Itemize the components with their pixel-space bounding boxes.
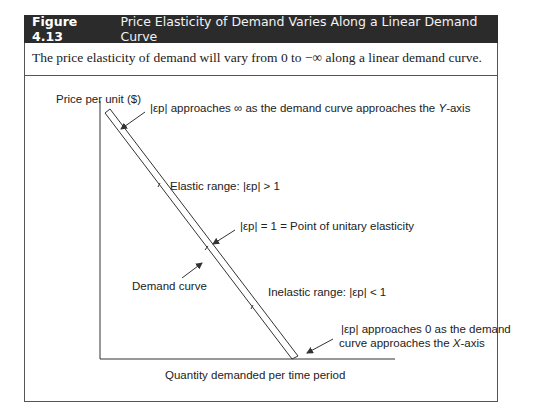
demand-diagram: Price per unit ($) |εp| approaches ∞ as … [0,0,559,412]
annotation-unitary: |εp| = 1 = Point of unitary elasticity [240,220,414,232]
arrow-unitary [213,230,235,244]
arrow-bottom [307,339,333,353]
arrow-curve [182,263,202,278]
demand-curve [105,109,298,359]
annotation-bottom-line1: |εp| approaches 0 as the demand [341,323,511,335]
demand-curve-label: Demand curve [132,280,207,292]
arrow-top [121,112,145,129]
x-axis-label: Quantity demanded per time period [165,369,345,381]
annotation-bottom-line2: curve approaches the X-axis [339,337,485,349]
annotation-inelastic: Inelastic range: |εp| < 1 [268,286,386,298]
annotation-elastic: Elastic range: |εp| > 1 [170,180,280,192]
y-axis-label: Price per unit ($) [56,93,141,105]
annotation-top: |εp| approaches ∞ as the demand curve ap… [150,102,471,114]
